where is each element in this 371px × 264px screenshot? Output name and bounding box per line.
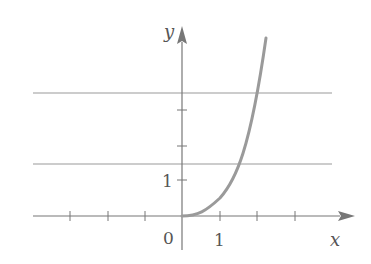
origin-label: 0 [163, 228, 174, 248]
x-tick-label-1: 1 [214, 230, 225, 250]
curve [182, 38, 266, 216]
y-axis-arrow-icon [177, 26, 187, 44]
y-tick-label-1: 1 [162, 171, 173, 191]
chart: 0 1 1 x y [0, 0, 371, 264]
x-axis-label: x [330, 229, 340, 250]
x-axis-arrow-icon [338, 211, 355, 221]
y-axis-label: y [163, 21, 175, 42]
